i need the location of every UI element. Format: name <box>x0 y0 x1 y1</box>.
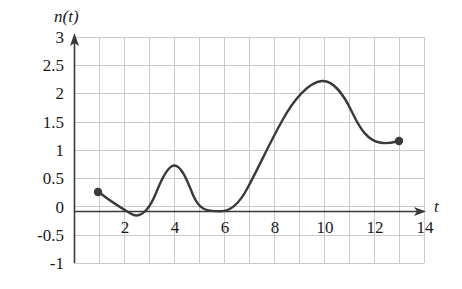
y-tick-label-neg-1: -1 <box>2 255 64 272</box>
x-tick-label-14: 14 <box>406 219 444 236</box>
right-endpoint-dot <box>395 137 403 145</box>
x-tick-label-12: 12 <box>356 219 394 236</box>
y-axis-label: n(t) <box>54 8 79 25</box>
x-tick-label-10: 10 <box>306 219 344 236</box>
x-tick-label-8: 8 <box>256 219 294 236</box>
y-tick-label-1: 1 <box>2 142 64 159</box>
y-tick-label-2-5: 2.5 <box>2 57 64 74</box>
chart-figure: 3 2.5 2 1.5 1 0.5 0 -0.5 -1 2 4 6 8 10 1… <box>0 0 462 289</box>
x-tick-label-6: 6 <box>206 219 244 236</box>
y-tick-label-3: 3 <box>2 29 64 46</box>
y-tick-label-neg-0-5: -0.5 <box>2 227 64 244</box>
y-tick-label-2: 2 <box>2 85 64 102</box>
y-axis <box>70 33 79 263</box>
y-tick-label-0: 0 <box>2 199 64 216</box>
plot-area <box>0 0 462 289</box>
x-axis-label: t <box>434 198 439 215</box>
x-tick-label-2: 2 <box>106 219 144 236</box>
y-tick-label-0-5: 0.5 <box>2 170 64 187</box>
left-endpoint-dot <box>94 188 102 196</box>
x-tick-label-4: 4 <box>156 219 194 236</box>
y-tick-label-1-5: 1.5 <box>2 114 64 131</box>
